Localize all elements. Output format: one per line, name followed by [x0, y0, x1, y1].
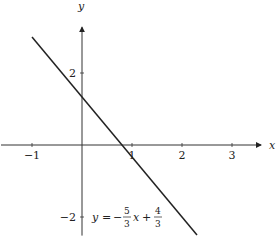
x-tick-label: 2	[179, 149, 186, 162]
eq-lhs: y	[91, 211, 99, 224]
eq-var: x	[133, 211, 140, 224]
x-tick-label: −1	[24, 149, 40, 162]
x-tick-label: 3	[229, 149, 236, 162]
series-line	[32, 37, 197, 235]
equation-annotation: y = − 5 3 x + 4 3	[91, 206, 162, 229]
eq-frac2-den: 3	[155, 219, 161, 229]
eq-minus: −	[113, 211, 122, 224]
eq-equals: =	[102, 211, 111, 224]
eq-plus: +	[142, 211, 151, 224]
x-axis-label: x	[269, 139, 276, 152]
eq-frac1-den: 3	[124, 219, 130, 229]
y-tick-label: 2	[69, 67, 76, 80]
eq-frac2-num: 4	[155, 206, 161, 216]
y-axis-label: y	[77, 0, 85, 13]
chart: x y −11232−2 y = − 5 3 x + 4 3	[0, 0, 276, 243]
eq-frac1-num: 5	[124, 206, 130, 216]
y-tick-label: −2	[60, 211, 76, 224]
